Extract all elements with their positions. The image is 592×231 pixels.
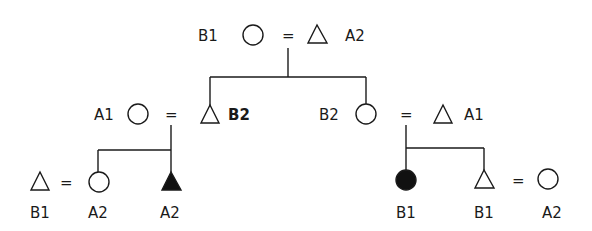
gen3-left-daughter-label: A2	[88, 204, 108, 222]
gen3-right-son-label: B1	[474, 204, 494, 222]
gen2-left-female-label: A1	[94, 106, 114, 124]
gen2-right-male-triangle-icon	[434, 105, 452, 123]
gen2-left-male-triangle-icon	[201, 105, 219, 123]
gen1-male-triangle-icon	[308, 25, 327, 43]
pedigree-svg: B1 = A2 A1 = B2 B2 = A1 = B1 A2 A2 = B1 …	[0, 0, 592, 231]
gen2-right-female-circle-icon	[356, 104, 376, 124]
gen3-left-son-filled-triangle-icon	[162, 172, 181, 190]
gen3-left-spouse-triangle-icon	[31, 172, 49, 190]
kinship-diagram: B1 = A2 A1 = B2 B2 = A1 = B1 A2 A2 = B1 …	[0, 0, 592, 231]
gen1-male-label: A2	[345, 27, 365, 45]
gen1-female-circle-icon	[243, 25, 263, 45]
gen2-right-female-label: B2	[319, 106, 339, 124]
gen2-right-male-label: A1	[464, 106, 484, 124]
gen3-left-daughter-circle-icon	[89, 172, 109, 192]
gen3-right-marriage-sign: =	[512, 172, 525, 190]
gen3-left-spouse-label: B1	[30, 204, 50, 222]
gen3-right-son-triangle-icon	[475, 170, 494, 188]
gen2-right-marriage-sign: =	[400, 106, 413, 124]
gen3-right-spouse-label: A2	[542, 204, 562, 222]
gen3-right-spouse-circle-icon	[538, 169, 558, 189]
gen3-right-daughter-filled-circle-icon	[396, 170, 416, 190]
gen2-left-male-label: B2	[228, 106, 250, 124]
gen3-left-son-label: A2	[160, 204, 180, 222]
gen3-right-daughter-label: B1	[396, 204, 416, 222]
gen1-female-label: B1	[198, 27, 218, 45]
gen2-left-marriage-sign: =	[165, 106, 178, 124]
gen1-marriage-sign: =	[282, 27, 295, 45]
gen2-left-female-circle-icon	[128, 104, 148, 124]
gen3-left-marriage-sign: =	[60, 174, 73, 192]
